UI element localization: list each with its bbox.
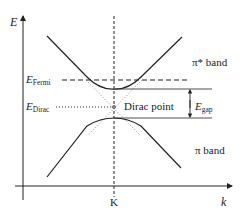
dirac-energy-label: EDirac [26,101,49,112]
band-diagram: E k K π* band π band EFermi EDirac Egap … [0,0,242,215]
k-point-label: K [110,197,118,208]
pi-star-band-label: π* band [192,57,227,68]
energy-axis-label: E [10,16,17,28]
gap-energy-label: Egap [195,101,213,112]
fermi-energy-label: EFermi [26,74,51,85]
dirac-point-label: Dirac point [124,101,174,112]
pi-band-label: π band [195,145,225,156]
momentum-axis-label: k [221,196,226,208]
